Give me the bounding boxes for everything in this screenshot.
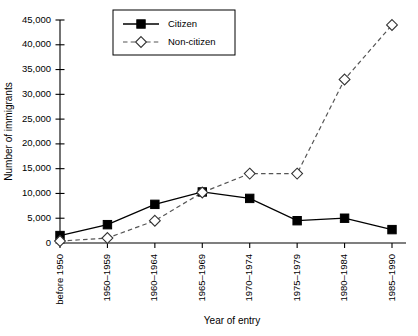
- x-axis-tick-label: 1970–1974: [243, 254, 254, 302]
- y-axis-tick-label: 10,000: [22, 187, 51, 198]
- y-axis-tick-label: 40,000: [22, 38, 51, 49]
- legend-label-non-citizen: Non-citizen: [168, 36, 216, 47]
- series-line-non-citizen: [60, 25, 392, 241]
- y-axis-tick-label: 0: [46, 237, 51, 248]
- data-point-non-citizen: [292, 168, 303, 179]
- y-axis-tick-label: 5,000: [27, 212, 51, 223]
- data-point-non-citizen: [102, 233, 113, 244]
- data-point-non-citizen: [149, 215, 160, 226]
- legend-marker-citizen: [137, 20, 145, 28]
- x-axis-tick-label: 1980–1984: [338, 254, 349, 302]
- x-axis-tick-label: 1975–1979: [291, 254, 302, 302]
- x-axis-tick-label: 1960–1964: [148, 254, 159, 302]
- y-axis-tick-label: 15,000: [22, 162, 51, 173]
- data-point-citizen: [293, 217, 301, 225]
- data-point-citizen: [340, 214, 348, 222]
- data-point-non-citizen: [244, 168, 255, 179]
- y-axis-tick-label: 45,000: [22, 14, 51, 25]
- data-point-citizen: [246, 194, 254, 202]
- y-axis-tick-label: 25,000: [22, 113, 51, 124]
- data-point-citizen: [103, 220, 111, 228]
- legend-label-citizen: Citizen: [168, 18, 197, 29]
- x-axis-tick-label: 1985–1990: [386, 254, 397, 302]
- y-axis-tick-label: 35,000: [22, 63, 51, 74]
- y-axis-tick-label: 20,000: [22, 137, 51, 148]
- y-axis-title: Number of immigrants: [3, 82, 14, 180]
- immigration-line-chart: 05,00010,00015,00020,00025,00030,00035,0…: [0, 0, 418, 336]
- x-axis-title: Year of entry: [204, 315, 260, 326]
- y-axis-tick-label: 30,000: [22, 88, 51, 99]
- chart-canvas: 05,00010,00015,00020,00025,00030,00035,0…: [0, 0, 418, 336]
- data-point-citizen: [151, 200, 159, 208]
- x-axis-tick-label: 1965–1969: [196, 254, 207, 302]
- data-point-citizen: [388, 225, 396, 233]
- x-axis-tick-label: before 1950: [54, 254, 65, 305]
- x-axis-tick-label: 1950–1959: [101, 254, 112, 302]
